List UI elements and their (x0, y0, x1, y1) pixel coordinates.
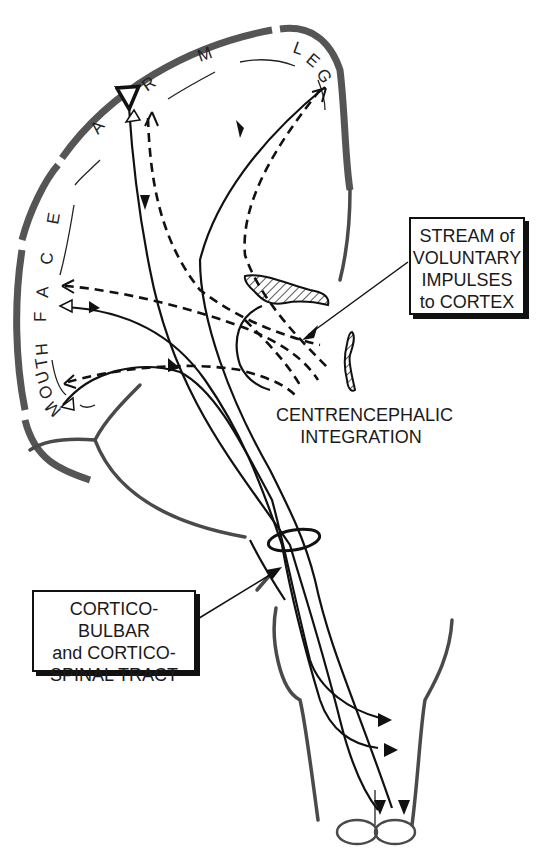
stream-pointer-arrow-icon (302, 325, 318, 340)
centrencephalic-line-1: CENTRENCEPHALIC (276, 404, 446, 426)
label-leg-g: G (313, 66, 337, 88)
label-face-c: C (37, 250, 57, 265)
spinal-arrow-1-icon (378, 713, 392, 727)
face-open-arrow-icon (60, 300, 72, 312)
arm-open-arrow-icon (126, 110, 140, 122)
centrencephalic-line-2: INTEGRATION (276, 426, 446, 448)
label-face-a: A (33, 285, 52, 298)
stream-line-4: to CORTEX (411, 291, 523, 313)
stream-callout-box: STREAM of VOLUNTARY IMPULSES to CORTEX (409, 217, 525, 315)
stream-line-2: VOLUNTARY (411, 247, 523, 269)
hatched-structures (245, 275, 355, 390)
leg-down-arrow-icon (236, 120, 244, 138)
spinal-arrow-2-icon (384, 743, 398, 757)
spinal-arrow-4-icon (398, 800, 410, 815)
area-boundaries (52, 60, 325, 407)
stream-line-3: IMPULSES (411, 269, 523, 291)
cortex-diagram: A R M L E G E C A F H T U O M (0, 0, 548, 860)
face-right-arrow-icon (87, 301, 101, 315)
label-arm-a: A (87, 116, 109, 138)
tract-line-2: and CORTICO- (34, 642, 194, 664)
centrencephalic-caption: CENTRENCEPHALIC INTEGRATION (276, 404, 446, 448)
stream-line-1: STREAM of (411, 225, 523, 247)
label-leg-l: L (291, 38, 307, 59)
solid-tracts (60, 87, 410, 815)
tract-ring (267, 526, 322, 555)
spinal-cord-end (337, 790, 415, 844)
cortex-labels: A R M L E G E C A F H T U O M (31, 38, 336, 421)
arm-down-arrow-icon (140, 195, 150, 210)
hemisphere-outline (30, 190, 452, 825)
label-leg-e: E (302, 50, 324, 72)
tract-callout-box: CORTICO-BULBAR and CORTICO- SPINAL TRACT (32, 590, 196, 672)
label-face-e: E (43, 210, 64, 225)
label-face-f: F (31, 311, 50, 322)
tract-line-3: SPINAL TRACT (34, 664, 194, 686)
tract-line-1: CORTICO-BULBAR (34, 598, 194, 642)
label-mouth-h: H (32, 341, 52, 356)
